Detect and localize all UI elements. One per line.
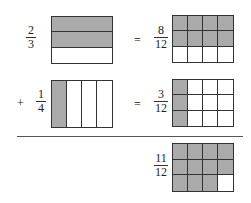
sum-line: [17, 136, 243, 137]
empty-cell: [218, 95, 233, 110]
shaded-cell: [203, 144, 218, 160]
shaded-cell: [173, 16, 188, 31]
numerator: 11: [155, 153, 167, 164]
denominator: 12: [155, 167, 167, 178]
shaded-cell: [188, 160, 203, 176]
equals-sign: =: [134, 34, 141, 46]
empty-cell: [188, 47, 203, 62]
empty-cell: [218, 47, 233, 62]
shaded-cell: [173, 160, 188, 176]
empty-cell: [52, 48, 112, 63]
area-model-one-quarter: [51, 80, 113, 128]
shaded-cell: [218, 16, 233, 31]
fraction-one-quarter: 1 4: [36, 89, 46, 114]
shaded-cell: [203, 31, 218, 46]
empty-cell: [218, 175, 233, 191]
fraction-eight-twelfths: 8 12: [154, 25, 168, 50]
numerator: 2: [28, 25, 34, 36]
shaded-cell: [218, 144, 233, 160]
shaded-cell: [188, 16, 203, 31]
empty-cell: [188, 111, 203, 126]
shaded-cell: [218, 160, 233, 176]
numerator: 1: [38, 89, 44, 100]
shaded-cell: [173, 111, 188, 126]
shaded-cell: [203, 160, 218, 176]
shaded-cell: [52, 32, 112, 47]
empty-cell: [188, 80, 203, 95]
empty-cell: [97, 81, 112, 127]
shaded-cell: [173, 80, 188, 95]
shaded-cell: [203, 175, 218, 191]
empty-cell: [203, 47, 218, 62]
empty-cell: [188, 95, 203, 110]
denominator: 12: [155, 103, 167, 114]
empty-cell: [203, 111, 218, 126]
plus-sign: +: [17, 97, 24, 109]
equals-sign: =: [134, 98, 141, 110]
empty-cell: [82, 81, 97, 127]
empty-cell: [173, 47, 188, 62]
shaded-cell: [203, 16, 218, 31]
shaded-cell: [218, 31, 233, 46]
denominator: 12: [155, 39, 167, 50]
empty-cell: [203, 95, 218, 110]
shaded-cell: [188, 31, 203, 46]
area-model-three-twelfths: [172, 79, 234, 127]
numerator: 8: [158, 25, 164, 36]
shaded-cell: [173, 31, 188, 46]
area-model-eight-twelfths: [172, 15, 234, 63]
denominator: 4: [38, 103, 44, 114]
numerator: 3: [158, 89, 164, 100]
empty-cell: [218, 111, 233, 126]
fraction-eleven-twelfths: 11 12: [154, 153, 168, 178]
shaded-cell: [173, 175, 188, 191]
shaded-cell: [173, 95, 188, 110]
denominator: 3: [28, 39, 34, 50]
shaded-cell: [188, 175, 203, 191]
shaded-cell: [52, 81, 67, 127]
shaded-cell: [188, 144, 203, 160]
empty-cell: [67, 81, 82, 127]
empty-cell: [203, 80, 218, 95]
shaded-cell: [52, 17, 112, 32]
fraction-two-thirds: 2 3: [26, 25, 36, 50]
empty-cell: [218, 80, 233, 95]
area-model-two-thirds: [51, 16, 113, 64]
fraction-three-twelfths: 3 12: [154, 89, 168, 114]
shaded-cell: [173, 144, 188, 160]
area-model-eleven-twelfths: [172, 143, 234, 192]
